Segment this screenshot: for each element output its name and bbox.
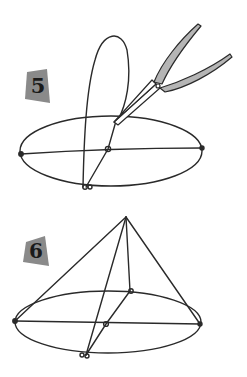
wire-ellipse xyxy=(20,116,202,186)
cone-edge-right xyxy=(126,217,200,324)
wire-diameter xyxy=(21,148,202,154)
cone-edge-left xyxy=(15,217,126,321)
step-6-label: 6 xyxy=(25,238,47,264)
pliers-icon xyxy=(114,24,232,125)
step-5-label: 5 xyxy=(27,71,49,101)
illustration xyxy=(0,0,247,377)
cone-edge-front xyxy=(86,217,126,355)
wire-diagonal xyxy=(86,121,116,187)
cone-edge-back xyxy=(126,217,130,291)
wire-loop xyxy=(83,36,129,187)
